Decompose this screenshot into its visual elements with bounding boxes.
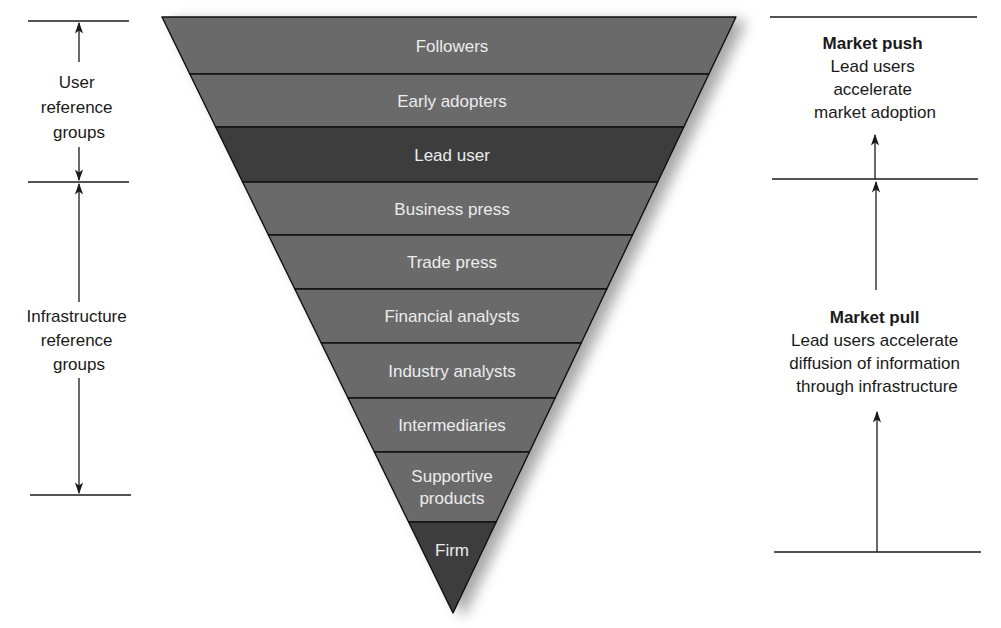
right-market-pull: Market pull Lead users accelerate diffus…: [774, 182, 981, 552]
funnel-band-label: Lead user: [414, 146, 490, 165]
market-push-text: Market push Lead users accelerate market…: [814, 34, 936, 122]
funnel-band-label: Followers: [416, 37, 489, 56]
market-pull-text: Market pull Lead users accelerate diffus…: [789, 308, 964, 396]
funnel-band-label: Firm: [435, 541, 469, 560]
funnel-band-label: Business press: [394, 200, 509, 219]
funnel-band-firm: [409, 522, 497, 613]
right-market-push: Market push Lead users accelerate market…: [770, 17, 978, 179]
infrastructure-reference-groups-label: Infrastructure reference groups: [27, 307, 132, 374]
funnel-band-label: Trade press: [407, 253, 497, 272]
funnel-band-label: Intermediaries: [398, 416, 506, 435]
funnel-band-label: Industry analysts: [388, 362, 516, 381]
lead-user-funnel-diagram: FollowersEarly adoptersLead userBusiness…: [0, 0, 1001, 628]
user-reference-groups-label: User reference groups: [41, 73, 118, 142]
funnel-band-label: Early adopters: [397, 92, 507, 111]
left-bracket-user-reference-groups: User reference groups: [28, 21, 129, 182]
funnel-band-supportive-products: [374, 452, 529, 522]
left-bracket-infrastructure-reference-groups: Infrastructure reference groups: [27, 184, 132, 495]
funnel-band-label: Financial analysts: [384, 307, 519, 326]
